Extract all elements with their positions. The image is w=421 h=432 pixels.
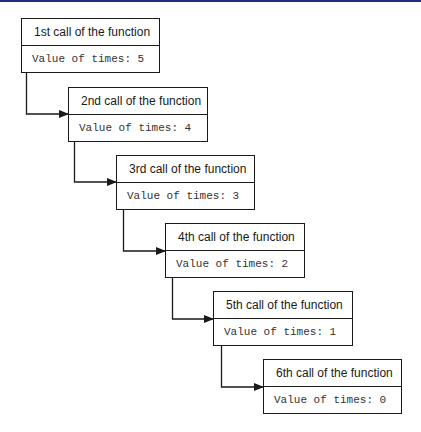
arrow-call1-to-call2 [27,72,69,114]
arrow-call4-to-call5 [173,278,214,319]
call-box-2: 2nd call of the function Value of times:… [68,87,208,142]
call-title: 3rd call of the function [117,156,254,183]
call-box-4: 4th call of the function Value of times:… [165,223,305,278]
call-box-5: 5th call of the function Value of times:… [213,291,353,346]
call-title: 5th call of the function [214,292,352,319]
call-title: 4th call of the function [166,224,304,251]
call-value: Value of times: 3 [117,183,254,210]
call-value: Value of times: 4 [69,115,207,142]
call-box-3: 3rd call of the function Value of times:… [116,155,255,210]
call-title: 1st call of the function [22,19,159,46]
call-value: Value of times: 2 [166,251,304,278]
arrow-call5-to-call6 [222,346,264,387]
call-box-1: 1st call of the function Value of times:… [21,18,160,73]
call-box-6: 6th call of the function Value of times:… [263,359,402,414]
call-title: 6th call of the function [264,360,401,387]
call-value: Value of times: 5 [22,46,159,73]
arrow-call3-to-call4 [124,209,166,251]
call-title: 2nd call of the function [69,88,207,115]
call-value: Value of times: 0 [264,387,401,414]
call-value: Value of times: 1 [214,319,352,346]
arrow-call2-to-call3 [75,141,117,182]
